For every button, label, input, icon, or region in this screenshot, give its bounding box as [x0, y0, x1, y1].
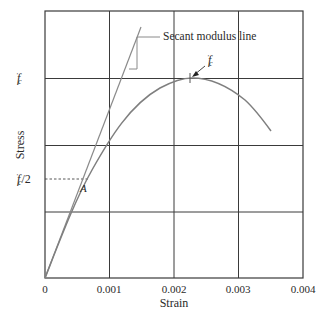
- x-tick-0002: 0.002: [162, 284, 187, 295]
- stress-strain-chart: [0, 0, 322, 317]
- slope-triangle: [129, 37, 160, 69]
- x-tick-0: 0: [42, 284, 48, 295]
- x-tick-0003: 0.003: [226, 284, 251, 295]
- point-a-label: A: [80, 183, 87, 194]
- y-axis-label: Stress: [14, 131, 26, 160]
- x-axis-label: Strain: [160, 297, 189, 309]
- secant-modulus-label: Secant modulus line: [163, 31, 256, 43]
- half-suffix: /2: [21, 172, 30, 186]
- fc-sub: c: [209, 59, 213, 68]
- peak-fc-label: f′c: [208, 54, 212, 68]
- x-tick-0004: 0.004: [291, 284, 316, 295]
- y-tick-fc: f′c: [17, 72, 21, 86]
- x-tick-0001: 0.001: [97, 284, 122, 295]
- stress-strain-curve: [45, 78, 271, 278]
- y-tick-half-fc: f′c/2: [17, 173, 31, 187]
- fc-sub: c: [18, 77, 22, 86]
- grid-lines: [45, 11, 303, 278]
